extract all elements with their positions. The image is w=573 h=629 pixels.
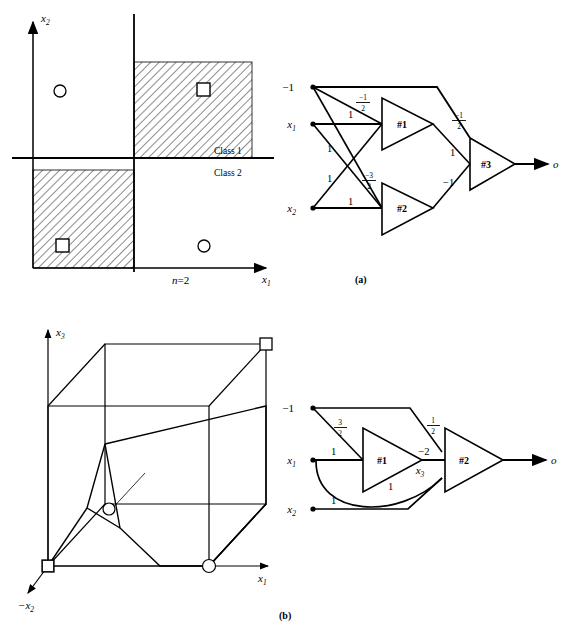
class-1-label: Class 1 [214, 146, 242, 156]
weight-node2-to-node3: −1 [443, 177, 454, 188]
marker-square-upper-right [197, 83, 210, 96]
cube-marker-circle-interior [103, 503, 115, 515]
weight-node1-to-node3: 1 [450, 147, 455, 158]
node-2-label: #2 [397, 203, 407, 214]
b-node-1-label: #1 [377, 455, 387, 466]
input-x1-label: x1 [286, 118, 296, 133]
b-output-label: o [551, 454, 557, 466]
dimension-label: n=2 [172, 274, 189, 286]
cube-marker-square-origin [42, 560, 54, 572]
svg-text:3: 3 [338, 418, 342, 427]
svg-text:−1: −1 [359, 93, 367, 102]
weight-x2-to-node1: 1 [327, 173, 332, 184]
svg-text:−3: −3 [365, 171, 373, 180]
panel-b-network: −1 x1 x2 #1 #2 o 3 2 1 1 1 1 [282, 402, 557, 518]
b-weight-node1-to-node2: −2 [418, 446, 429, 457]
panel-a-network: −1 x1 x2 #1 #2 #3 o −1 2 1 [282, 81, 559, 235]
input-bias-label: −1 [282, 81, 294, 93]
b-weight-bias-to-node1: 3 2 [334, 418, 347, 438]
node-2-triangle [382, 183, 433, 235]
cube-marker-square-top-far-right [260, 338, 272, 350]
cube-y-axis-label: x3 [55, 326, 65, 341]
node-3-label: #3 [481, 159, 491, 170]
b-weight-x1-to-node2: 1 [388, 481, 393, 492]
output-label: o [553, 158, 559, 170]
weight-x1-to-node2: 1 [327, 143, 332, 154]
hatched-region-lower-left [33, 170, 134, 268]
svg-text:2: 2 [431, 427, 435, 436]
caption-a: (a) [355, 274, 367, 286]
input-x2-label: x2 [286, 202, 296, 217]
node-1-label: #1 [397, 119, 407, 130]
svg-text:2: 2 [361, 104, 365, 113]
node-3-triangle [470, 138, 515, 190]
hatched-region-upper-right [134, 62, 252, 158]
marker-circle-lower-right [198, 240, 210, 252]
svg-text:−1: −1 [455, 111, 463, 120]
b-intermediate-label: x3 [415, 464, 425, 479]
marker-circle-upper-left [54, 85, 66, 97]
weight-bias-to-node2: −3 2 [362, 171, 376, 191]
weight-bias-to-node1: −1 2 [356, 93, 370, 113]
cube-z-axis-label: −x2 [18, 599, 34, 614]
class-2-label: Class 2 [214, 168, 242, 178]
svg-text:2: 2 [457, 122, 461, 131]
marker-square-lower-left [56, 239, 69, 252]
b-node-2-label: #2 [459, 455, 469, 466]
b-input-x1-label: x1 [286, 454, 296, 469]
weight-x2-to-node2: 1 [348, 196, 353, 207]
cube-marker-circle-bottom-right [203, 560, 216, 573]
b-weight-x2-to-node2: 1 [331, 495, 336, 506]
b-input-bias-label: −1 [282, 402, 294, 414]
svg-text:2: 2 [338, 429, 342, 438]
figure-svg: x2 x1 Class 1 Class 2 n=2 −1 x1 x2 #1 [0, 0, 573, 629]
svg-text:2: 2 [367, 182, 371, 191]
weight-x1-to-node1: 1 [348, 109, 353, 120]
panel-b-cube: x3 x1 −x2 [18, 326, 272, 614]
cube-x-axis-label: x1 [257, 572, 267, 587]
caption-b: (b) [279, 610, 291, 622]
y-axis-label: x2 [40, 12, 50, 27]
svg-text:1: 1 [431, 416, 435, 425]
node-1-triangle [382, 98, 433, 150]
panel-a-plot: x2 x1 Class 1 Class 2 n=2 [12, 12, 274, 288]
b-weight-x1-to-node1: 1 [331, 446, 336, 457]
separating-surface [48, 406, 266, 566]
cube-wireframe [48, 344, 266, 566]
b-input-x2-label: x2 [286, 503, 296, 518]
b-node-2-triangle [445, 428, 503, 492]
figure-container: x2 x1 Class 1 Class 2 n=2 −1 x1 x2 #1 [0, 0, 573, 629]
x-axis-label: x1 [261, 273, 271, 288]
